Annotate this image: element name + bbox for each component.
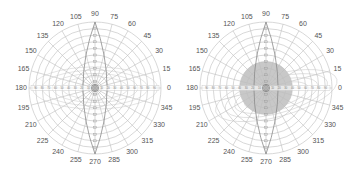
angle-tick-label: 180 — [15, 84, 27, 91]
grid-spoke — [95, 88, 112, 152]
angle-tick-label: 150 — [25, 47, 37, 54]
grid-spoke — [78, 88, 95, 152]
polar-chart-left-svg: 0153045607590105120135150165180195210225… — [0, 0, 180, 173]
angle-tick-label: 0 — [167, 84, 171, 91]
angle-tick-label: 345 — [161, 104, 173, 111]
polar-plot-left: 0153045607590105120135150165180195210225… — [0, 0, 180, 173]
angle-tick-label: 270 — [89, 158, 101, 165]
angle-tick-label: 75 — [110, 13, 118, 20]
angle-tick-label: 225 — [208, 137, 220, 144]
grid-spoke — [62, 31, 95, 88]
angle-tick-label: 135 — [37, 32, 49, 39]
angle-tick-label: 330 — [153, 121, 165, 128]
angle-tick-label: 60 — [299, 20, 307, 27]
grid-spoke — [95, 55, 152, 88]
angle-tick-label: 75 — [281, 13, 289, 20]
angle-tick-label: 195 — [189, 104, 201, 111]
angle-tick-label: 195 — [18, 104, 30, 111]
angle-tick-label: 270 — [260, 158, 272, 165]
angle-tick-label: 225 — [37, 137, 49, 144]
grid-spoke — [95, 31, 128, 88]
angle-tick-label: 90 — [91, 10, 99, 17]
angle-tick-label: 255 — [70, 156, 82, 163]
angle-tick-label: 180 — [186, 84, 198, 91]
polar-plot-right: 0153045607590105120135150165180195210225… — [180, 0, 360, 173]
angle-tick-label: 30 — [155, 47, 163, 54]
grid-spoke — [38, 88, 95, 121]
angle-tick-label: 345 — [332, 104, 344, 111]
angle-tick-label: 315 — [312, 137, 324, 144]
angle-tick-label: 165 — [18, 65, 30, 72]
angle-tick-label: 300 — [126, 148, 138, 155]
angle-tick-label: 255 — [241, 156, 253, 163]
angle-tick-label: 60 — [128, 20, 136, 27]
grid-spoke — [95, 24, 112, 88]
angle-tick-label: 105 — [70, 13, 82, 20]
angle-tick-label: 165 — [189, 65, 201, 72]
angle-tick-label: 45 — [314, 32, 322, 39]
angle-tick-label: 300 — [297, 148, 309, 155]
grid-spoke — [95, 88, 152, 121]
angle-tick-label: 285 — [279, 156, 291, 163]
angle-tick-label: 210 — [196, 121, 208, 128]
angle-tick-label: 330 — [324, 121, 336, 128]
angle-tick-label: 135 — [208, 32, 220, 39]
angle-tick-label: 285 — [108, 156, 120, 163]
angle-tick-label: 15 — [163, 65, 171, 72]
angle-tick-label: 30 — [326, 47, 334, 54]
angle-tick-label: 240 — [52, 148, 64, 155]
angle-tick-label: 150 — [196, 47, 208, 54]
angle-tick-label: 120 — [223, 20, 235, 27]
angle-tick-label: 0 — [338, 84, 342, 91]
angle-tick-label: 105 — [241, 13, 253, 20]
radial-axis-labels: 101020203030404050506060707080809090 — [202, 86, 330, 91]
radial-axis-labels: 101020203030404050506060707080809090 — [31, 86, 159, 91]
angle-tick-label: 45 — [143, 32, 151, 39]
grid-spoke — [95, 88, 128, 145]
angle-tick-label: 210 — [25, 121, 37, 128]
angle-tick-label: 120 — [52, 20, 64, 27]
angle-tick-label: 90 — [262, 10, 270, 17]
polar-chart-right-svg: 0153045607590105120135150165180195210225… — [180, 0, 360, 173]
grid-spoke — [62, 88, 95, 145]
grid-spoke — [38, 55, 95, 88]
angle-tick-label: 240 — [223, 148, 235, 155]
angle-tick-label: 15 — [334, 65, 342, 72]
angle-tick-label: 315 — [141, 137, 153, 144]
grid-spoke — [78, 24, 95, 88]
